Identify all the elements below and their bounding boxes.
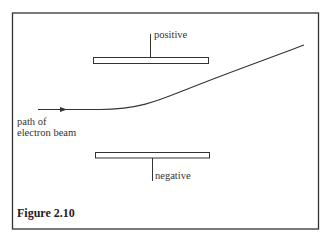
positive-label: positive — [154, 29, 187, 41]
figure-caption: Figure 2.10 — [17, 206, 75, 221]
electron-beam-path — [38, 45, 304, 110]
negative-label: negative — [155, 170, 191, 182]
positive-plate — [94, 58, 209, 64]
negative-plate — [96, 153, 210, 159]
figure-frame — [13, 13, 319, 229]
beam-label-line2: electron beam — [17, 127, 76, 139]
beam-direction-arrow — [60, 107, 67, 112]
